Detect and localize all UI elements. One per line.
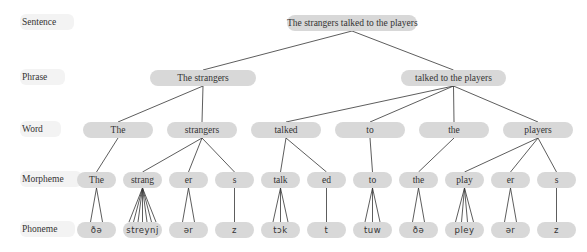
phoneme-node: ər bbox=[491, 222, 530, 238]
phoneme-node: t bbox=[307, 222, 346, 238]
morpheme-node: s bbox=[537, 172, 576, 188]
morpheme-node: er bbox=[169, 172, 208, 188]
morpheme-node: er bbox=[491, 172, 530, 188]
row-label-word: Word bbox=[20, 121, 61, 137]
phoneme-node: tuw bbox=[353, 222, 392, 238]
phoneme-node: ər bbox=[169, 222, 208, 238]
morpheme-node: play bbox=[445, 172, 484, 188]
word-node: the bbox=[419, 122, 489, 138]
phoneme-node: ðə bbox=[77, 222, 116, 238]
phoneme-node: pley bbox=[445, 222, 484, 238]
phoneme-node: z bbox=[537, 222, 576, 238]
phoneme-node: z bbox=[215, 222, 254, 238]
morpheme-node: talk bbox=[261, 172, 300, 188]
morpheme-node: The bbox=[77, 172, 116, 188]
row-label-phrase: Phrase bbox=[20, 69, 65, 85]
morpheme-node: the bbox=[399, 172, 438, 188]
linguistic-hierarchy-tree: SentencePhraseWordMorphemePhonemeThe str… bbox=[0, 0, 587, 252]
morpheme-node: s bbox=[215, 172, 254, 188]
row-label-phoneme: Phoneme bbox=[20, 221, 75, 237]
word-node: strangers bbox=[167, 122, 237, 138]
word-node: to bbox=[335, 122, 405, 138]
phoneme-node: tɔk bbox=[261, 222, 300, 238]
morpheme-node: strang bbox=[123, 172, 162, 188]
phoneme-node: ðə bbox=[399, 222, 438, 238]
morpheme-node: ed bbox=[307, 172, 346, 188]
word-node: players bbox=[503, 122, 573, 138]
morpheme-node: to bbox=[353, 172, 392, 188]
row-label-morpheme: Morpheme bbox=[20, 171, 82, 187]
phoneme-node: streynj bbox=[123, 222, 162, 238]
sentence-node: The strangers talked to the players bbox=[287, 15, 417, 31]
word-node: talked bbox=[251, 122, 321, 138]
row-label-sentence: Sentence bbox=[20, 14, 74, 30]
word-node: The bbox=[83, 122, 153, 138]
phrase-node: The strangers bbox=[150, 70, 256, 86]
phrase-node: talked to the players bbox=[401, 70, 506, 86]
